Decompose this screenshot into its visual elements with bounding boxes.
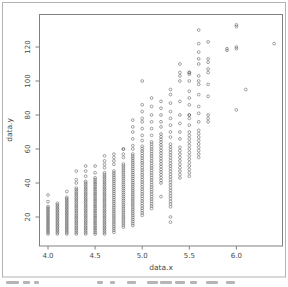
data-point (207, 58, 210, 61)
data-point (169, 170, 172, 173)
data-point (244, 88, 247, 91)
data-point (150, 97, 153, 100)
data-point (235, 24, 238, 27)
scatter-plot: 4.04.55.05.56.0 20406080100120 data.x da… (0, 0, 288, 287)
data-point (179, 100, 182, 103)
data-point (188, 80, 191, 83)
data-point (169, 159, 172, 162)
data-point (197, 136, 200, 139)
data-point (160, 160, 163, 163)
data-point (207, 114, 210, 117)
data-point (94, 177, 97, 180)
data-point (131, 119, 134, 122)
data-point (169, 88, 172, 91)
data-point (169, 146, 172, 149)
data-point (188, 148, 191, 151)
cropped-caption-strip (0, 279, 288, 287)
data-point (197, 112, 200, 115)
data-point (179, 122, 182, 125)
data-point (169, 200, 172, 203)
data-point (160, 126, 163, 129)
scatter-plot-figure: 4.04.55.05.56.0 20406080100120 data.x da… (0, 0, 288, 287)
data-point (207, 68, 210, 71)
y-axis-label: data.y (5, 118, 14, 142)
data-point (169, 181, 172, 184)
data-point (103, 166, 106, 169)
data-point (197, 146, 200, 149)
data-point (113, 160, 116, 163)
data-point (75, 182, 78, 185)
data-point (169, 178, 172, 181)
data-point (169, 143, 172, 146)
data-point (169, 93, 172, 96)
data-point (197, 51, 200, 54)
data-point (197, 129, 200, 132)
data-point (160, 173, 163, 176)
x-tick-label: 4.0 (42, 252, 53, 260)
data-point (179, 149, 182, 152)
data-point (207, 41, 210, 44)
data-point (47, 200, 50, 203)
data-point (188, 158, 191, 161)
data-point (141, 110, 144, 113)
data-point (84, 170, 87, 173)
data-point (197, 58, 200, 61)
data-point (197, 153, 200, 156)
data-point (179, 146, 182, 149)
data-point (160, 163, 163, 166)
data-point (188, 168, 191, 171)
data-point (169, 154, 172, 157)
x-tick-label: 4.5 (90, 252, 101, 260)
data-point (122, 148, 125, 151)
data-point (84, 165, 87, 168)
data-point (169, 117, 172, 120)
data-point (141, 103, 144, 106)
data-point (160, 152, 163, 155)
data-point (197, 29, 200, 32)
y-tick-label: 60 (24, 145, 32, 154)
data-point (197, 132, 200, 135)
data-point (188, 141, 191, 144)
data-point (207, 95, 210, 98)
data-point (179, 160, 182, 163)
data-point (207, 83, 210, 86)
y-tick-label: 80 (24, 111, 32, 120)
data-point (75, 187, 78, 190)
data-point (113, 163, 116, 166)
data-point (188, 175, 191, 178)
data-point (197, 143, 200, 146)
data-point (169, 176, 172, 179)
data-point (160, 144, 163, 147)
data-point (188, 90, 191, 93)
data-point (169, 186, 172, 189)
x-tick-label: 5.5 (184, 252, 195, 260)
data-point (160, 149, 163, 152)
data-point (160, 182, 163, 185)
data-point (188, 103, 191, 106)
data-point (131, 137, 134, 140)
data-point (94, 165, 97, 168)
data-point (188, 71, 191, 74)
data-point (169, 221, 172, 224)
data-point (160, 154, 163, 157)
data-point (160, 146, 163, 149)
data-point (188, 114, 191, 117)
data-point (141, 134, 144, 137)
data-point (179, 170, 182, 173)
data-point (47, 194, 50, 197)
data-point (103, 160, 106, 163)
y-tick-label: 120 (24, 40, 32, 53)
data-point (207, 61, 210, 64)
data-point (169, 197, 172, 200)
data-point (131, 126, 134, 129)
data-point (188, 144, 191, 147)
data-point (169, 131, 172, 134)
data-point (150, 105, 153, 108)
data-point (169, 192, 172, 195)
data-point (103, 171, 106, 174)
data-point (75, 170, 78, 173)
data-point (235, 109, 238, 112)
data-point (197, 93, 200, 96)
data-point (150, 127, 153, 130)
data-point (122, 156, 125, 159)
